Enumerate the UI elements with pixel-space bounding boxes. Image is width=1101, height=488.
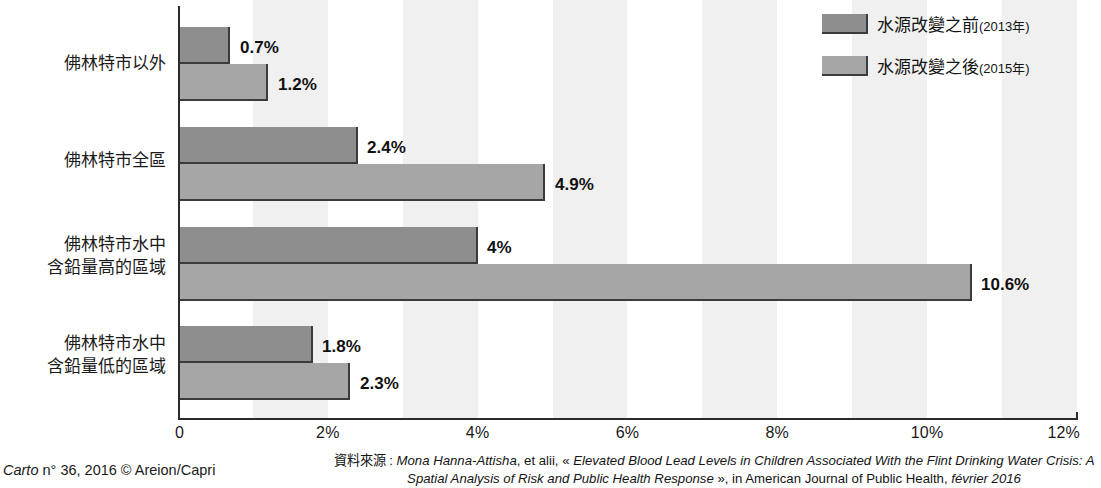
bar-chart: 水源改變之前(2013年) 水源改變之後(2015年) 佛林特市以外 佛林特市全… bbox=[0, 0, 1101, 488]
plot-area: 0.7% 1.2% 2.4% 4.9% 4% 10.6% 1.8% 2.3% bbox=[178, 0, 1077, 419]
source-date: février 2016 bbox=[951, 471, 1021, 486]
bar-value-after-1: 4.9% bbox=[555, 176, 594, 193]
x-tick-label-6: 12% bbox=[1047, 424, 1080, 442]
source-journal: », in American Journal of Public Health, bbox=[714, 471, 952, 486]
bar-before-1[interactable] bbox=[178, 127, 358, 164]
credit-rest: n° 36, 2016 © Areion/Capri bbox=[38, 462, 215, 478]
category-label-1: 佛林特市全區 bbox=[14, 150, 166, 173]
bar-before-3[interactable] bbox=[178, 326, 313, 363]
credit-line: Carto n° 36, 2016 © Areion/Capri bbox=[3, 462, 215, 478]
bar-value-before-3: 1.8% bbox=[322, 338, 361, 355]
x-tick-label-5: 10% bbox=[911, 424, 944, 442]
bar-value-after-2: 10.6% bbox=[981, 276, 1029, 293]
bar-value-before-1: 2.4% bbox=[367, 139, 406, 156]
bar-group-3: 1.8% 2.3% bbox=[178, 326, 1077, 400]
source-mid-1: , et alii, « bbox=[517, 453, 573, 468]
x-tick-6 bbox=[1076, 412, 1078, 420]
x-axis-line bbox=[178, 418, 1078, 420]
bar-after-1[interactable] bbox=[178, 164, 545, 201]
bar-before-2[interactable] bbox=[178, 227, 478, 264]
bar-value-before-0: 0.7% bbox=[240, 39, 279, 56]
x-tick-label-0: 0 bbox=[175, 424, 184, 442]
credit-title: Carto bbox=[3, 462, 38, 478]
source-author: Mona Hanna-Attisha bbox=[397, 453, 517, 468]
bar-value-after-3: 2.3% bbox=[360, 375, 399, 392]
bar-before-0[interactable] bbox=[178, 27, 230, 64]
source-label: 資料來源 : bbox=[334, 453, 397, 468]
x-tick-0 bbox=[178, 412, 180, 420]
x-tick-label-2: 4% bbox=[466, 424, 490, 442]
bar-after-3[interactable] bbox=[178, 363, 350, 400]
bar-group-0: 0.7% 1.2% bbox=[178, 27, 1077, 101]
category-label-0: 佛林特市以外 bbox=[14, 53, 166, 76]
bar-value-after-0: 1.2% bbox=[278, 76, 317, 93]
x-tick-label-4: 8% bbox=[765, 424, 789, 442]
bar-group-1: 2.4% 4.9% bbox=[178, 127, 1077, 201]
bar-value-before-2: 4% bbox=[487, 239, 512, 256]
y-axis-line bbox=[178, 6, 180, 420]
category-label-2: 佛林特市水中 含鉛量高的區域 bbox=[14, 234, 166, 280]
x-tick-label-1: 2% bbox=[316, 424, 340, 442]
category-label-3: 佛林特市水中 含鉛量低的區域 bbox=[14, 333, 166, 379]
source-note: 資料來源 : Mona Hanna-Attisha, et alii, « El… bbox=[330, 452, 1098, 488]
bar-after-2[interactable] bbox=[178, 264, 972, 301]
x-tick-label-3: 6% bbox=[616, 424, 640, 442]
source-article-part-1: Elevated Blood Lead Levels in Children A… bbox=[573, 453, 1003, 468]
bar-after-0[interactable] bbox=[178, 64, 268, 101]
bar-group-2: 4% 10.6% bbox=[178, 227, 1077, 301]
